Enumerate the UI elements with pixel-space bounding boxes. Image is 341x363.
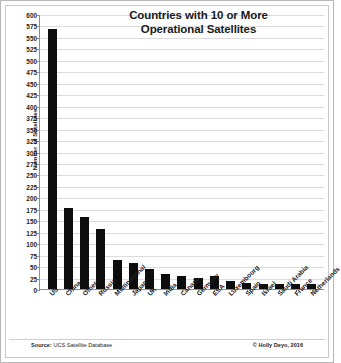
source-label: Source: [31, 342, 52, 348]
plot-wrapper: 6005755505255004754504254003753503253002… [39, 15, 324, 290]
bar-slot [141, 15, 157, 289]
y-axis-tick-label: 350 [15, 126, 37, 133]
y-axis-tick-label: 550 [15, 34, 37, 41]
y-axis-tick-label: 50 [15, 264, 37, 271]
source-note: Source: UCS Satellite Database [31, 342, 112, 348]
y-axis-tick-label: 125 [15, 229, 37, 236]
y-axis-tick-label: 275 [15, 160, 37, 167]
bar-slot [93, 15, 109, 289]
bar-slot [125, 15, 141, 289]
y-axis-tick-label: 300 [15, 149, 37, 156]
x-axis-labels: USChinaOthersRussiaMultinationalJapanUKI… [39, 292, 324, 344]
y-axis-tick-label: 200 [15, 195, 37, 202]
y-axis-tick-label: 400 [15, 103, 37, 110]
y-axis-tick-label: 375 [15, 115, 37, 122]
y-axis-tick-label: 150 [15, 218, 37, 225]
chart-title: Countries with 10 or More Operational Sa… [76, 9, 321, 36]
bar-slot [255, 15, 271, 289]
bar-slot [288, 15, 304, 289]
y-axis-tick-label: 100 [15, 241, 37, 248]
bar-slot [76, 15, 92, 289]
y-axis-tick-label: 175 [15, 206, 37, 213]
bar[interactable] [48, 29, 57, 289]
bar[interactable] [64, 208, 73, 289]
chart-footer: Source: UCS Satellite Database © Holly D… [9, 339, 325, 356]
plot-area: 6005755505255004754504254003753503253002… [39, 15, 324, 290]
y-axis-tick-mark [37, 290, 40, 291]
y-axis-tick-label: 450 [15, 80, 37, 87]
bar[interactable] [80, 217, 89, 289]
y-axis-tick-label: 225 [15, 183, 37, 190]
bar-slot [239, 15, 255, 289]
bar-slot [304, 15, 320, 289]
y-axis-tick-label: 500 [15, 57, 37, 64]
bar-slot [158, 15, 174, 289]
y-axis-tick-label: 25 [15, 275, 37, 282]
bar-slot [109, 15, 125, 289]
bar-slot [44, 15, 60, 289]
y-axis-tick-label: 325 [15, 138, 37, 145]
bar-slot [190, 15, 206, 289]
chart-title-line-1: Countries with 10 or More [76, 9, 321, 23]
y-axis-tick-label: 575 [15, 23, 37, 30]
chart-title-line-2: Operational Satellites [76, 23, 321, 37]
bar-slot [223, 15, 239, 289]
y-axis-tick-label: 525 [15, 46, 37, 53]
y-axis-tick-label: 0 [15, 287, 37, 294]
y-axis-tick-label: 250 [15, 172, 37, 179]
bars-group [40, 15, 324, 289]
y-axis-tick-label: 475 [15, 69, 37, 76]
bar-slot [206, 15, 222, 289]
bar-slot [60, 15, 76, 289]
y-axis-tick-label: 600 [15, 12, 37, 19]
y-axis-tick-label: 425 [15, 92, 37, 99]
bar-slot [271, 15, 287, 289]
bar-slot [174, 15, 190, 289]
copyright-note: © Holly Deyo, 2016 [253, 342, 303, 348]
y-axis-tick-label: 75 [15, 252, 37, 259]
